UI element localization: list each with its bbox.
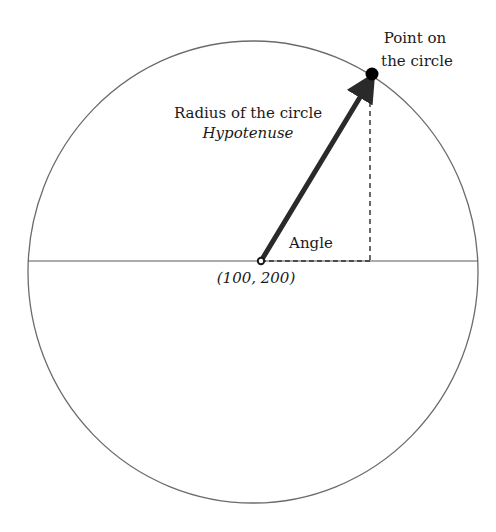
- center-coordinates-label: (100, 200): [217, 269, 296, 287]
- hypotenuse-label: Hypotenuse: [202, 124, 294, 142]
- angle-label: Angle: [288, 234, 333, 252]
- point-on-circle-label-line1: Point on: [384, 29, 447, 47]
- circle-angle-diagram: Point on the circle Radius of the circle…: [0, 0, 496, 532]
- radius-label: Radius of the circle: [174, 104, 322, 122]
- point-on-circle-label-line2: the circle: [381, 52, 453, 70]
- point-on-circle-marker: [366, 68, 379, 81]
- center-point-marker: [258, 258, 264, 264]
